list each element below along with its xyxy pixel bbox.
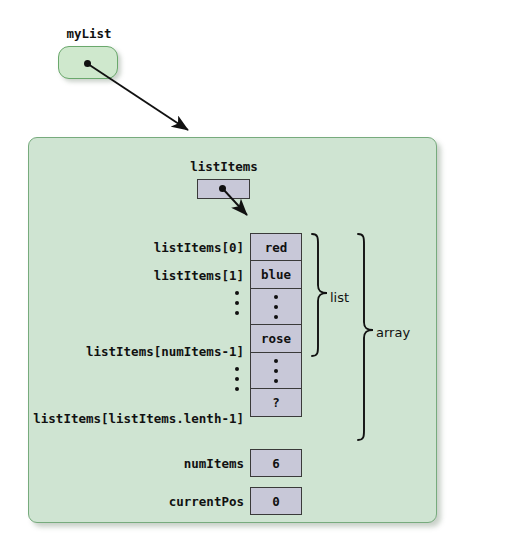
mylist-reference-dot-icon (84, 60, 91, 67)
row-label-index-numitems-minus-1: listItems[numItems-1] (14, 344, 244, 359)
row-label-index-1: listItems[1] (14, 268, 244, 283)
array-cell-1: blue (250, 261, 302, 289)
array-cell-ellipsis-lower (250, 353, 302, 389)
array-cell-ellipsis-upper (250, 289, 302, 325)
currentpos-value-box: 0 (250, 487, 302, 515)
diagram-canvas: myList listItems red blue rose ? 6 0 lis… (0, 0, 506, 548)
row-ellipsis-lower-icon (232, 367, 242, 391)
row-ellipsis-upper-icon (232, 291, 242, 315)
vertical-ellipsis-icon (274, 353, 278, 388)
listitems-reference-dot-icon (219, 185, 226, 192)
row-label-numitems: numItems (14, 456, 244, 471)
brace-label-array: array (376, 325, 410, 340)
numitems-value-box: 6 (250, 449, 302, 477)
row-label-currentpos: currentPos (14, 494, 244, 509)
row-label-index-length-minus-1: listItems[listItems.lenth-1] (14, 411, 244, 426)
array-cell-0: red (250, 233, 302, 261)
array-cell-last-used: rose (250, 325, 302, 353)
brace-label-list: list (330, 290, 349, 305)
mylist-label: myList (58, 26, 120, 41)
vertical-ellipsis-icon (274, 289, 278, 324)
array-cell-last: ? (250, 389, 302, 417)
listitems-field-label: listItems (186, 159, 262, 174)
row-label-index-0: listItems[0] (14, 240, 244, 255)
array-cell-stack: red blue rose ? (250, 233, 302, 417)
